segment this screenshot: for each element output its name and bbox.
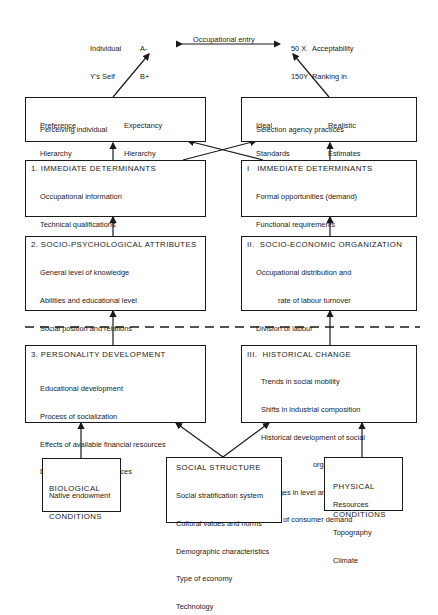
biological-conditions-box: BIOLOGICAL CONDITIONS Native endowment [42,458,121,512]
socio-economic-organization-box: II. SOCIO-ECONOMIC ORGANIZATION Occupati… [241,236,417,311]
personality-development-box: 3. PERSONALITY DEVELOPMENT Educational d… [25,345,206,423]
box-title: 3. PERSONALITY DEVELOPMENT [31,350,166,359]
box-title: I IMMEDIATE DETERMINANTS [247,164,372,173]
physical-conditions-box: PHYSICAL CONDITIONS Resources Topography… [324,457,403,511]
organization-immediate-determinants-box: I IMMEDIATE DETERMINANTS Formal opportun… [241,160,417,217]
historical-change-box: III. HISTORICAL CHANGE Trends in social … [241,345,417,423]
occupational-entry-label: Occupational entry [193,35,255,44]
box-title: II. SOCIO-ECONOMIC ORGANIZATION [247,240,402,249]
selection-agency-box: Ideal Standards Realistic Estimates Sele… [241,97,417,142]
box-items: Social stratification system Cultural va… [176,473,269,615]
individual-immediate-determinants-box: 1. IMMEDIATE DETERMINANTS Occupational i… [25,160,206,217]
social-structure-box: SOCIAL STRUCTURE Social stratification s… [166,457,282,523]
box-items: Resources Topography Climate [333,482,372,583]
selection-agency-label: Selection agency practices [256,125,344,134]
socio-psychological-attributes-box: 2. SOCIO-PSYCHOLOGICAL ATTRIBUTES Genera… [25,236,206,311]
box-title: BIOLOGICAL CONDITIONS [49,465,102,540]
perceiving-individual-label: Perceiving individual [40,125,107,134]
perceiving-individual-box: Preference Hierarchy Expectancy Hierarch… [25,97,206,142]
box-title: III. HISTORICAL CHANGE [247,350,351,359]
box-title: 1. IMMEDIATE DETERMINANTS [31,164,156,173]
box-items: Native endowment [49,491,110,500]
box-title: 2. SOCIO-PSYCHOLOGICAL ATTRIBUTES [31,240,197,249]
box-title: SOCIAL STRUCTURE [176,463,261,472]
